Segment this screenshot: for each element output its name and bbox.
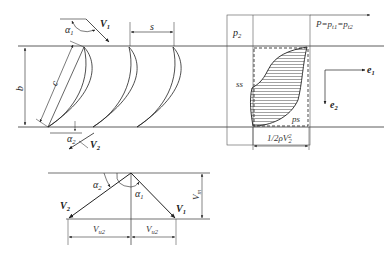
p2-label: p2: [232, 27, 242, 39]
v1-label: V1: [176, 203, 186, 215]
chord-ext-bottom: [36, 119, 48, 127]
blade-1: [48, 47, 92, 127]
outlet-angle-label: α2: [67, 133, 76, 145]
pressure-distribution-diagram: p2 P=pt1=pt2 ss ps 1/2ρV22 e1 e2: [227, 15, 375, 150]
suction-side-label: ss: [236, 79, 244, 89]
blade-cascade: c b s α1 V1 α2 V2: [14, 18, 384, 151]
alpha2-arc: [104, 173, 110, 187]
pressure-side-label: ps: [291, 114, 301, 124]
pitch-label: s: [150, 21, 154, 32]
outlet-velocity-tick: [79, 141, 88, 148]
blade-2: [93, 47, 137, 127]
pressure-equation-label: P=pt1=pt2: [315, 19, 354, 30]
span-label: b: [14, 86, 25, 91]
chord-line: [48, 47, 84, 127]
inlet-velocity-label: V1: [100, 18, 110, 30]
vu2-right-label: Vu2: [146, 224, 159, 235]
chord-label: c: [48, 78, 60, 87]
inlet-angle-label: α1: [65, 24, 74, 36]
vu2-left-label: Vu2: [93, 224, 106, 235]
v2-label: V2: [60, 200, 71, 212]
turbine-cascade-diagram: c b s α1 V1 α2 V2 p2 P=pt1=pt2 ss ps: [0, 0, 384, 255]
axis-e1-label: e1: [367, 64, 375, 76]
axis-e2-label: e2: [330, 99, 338, 111]
alpha2-label: α2: [93, 179, 102, 191]
velocity-triangle: α2 α1 V2 V1 Vm Vu2 Vu2: [48, 173, 210, 245]
v2-vector: [69, 173, 131, 218]
outlet-velocity-label: V2: [90, 139, 101, 151]
vm-label: Vm: [191, 190, 202, 201]
inlet-angle-arc: [72, 21, 95, 32]
alpha1-label: α1: [135, 188, 144, 200]
dynamic-pressure-label: 1/2ρV22: [267, 132, 293, 144]
blade-3: [137, 47, 181, 127]
